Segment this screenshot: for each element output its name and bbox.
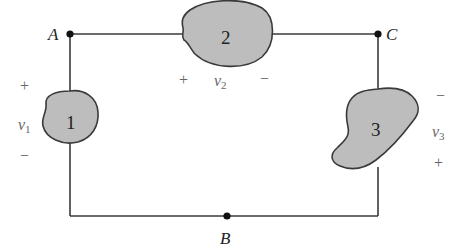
node-a-dot [66,30,73,37]
v2-label: v2 [214,73,227,91]
v3-label: v3 [432,124,445,142]
v3-plus-sign: + [434,155,443,171]
v2-minus-sign: − [260,71,269,87]
v1-minus-sign: − [20,148,29,164]
v1-subscript: 1 [25,123,31,135]
element-2-label: 2 [221,28,231,47]
node-c-dot [374,30,381,37]
node-a-label: A [48,26,58,43]
node-b-label: B [220,230,230,247]
element-3-label: 3 [371,120,381,139]
node-c-label: C [386,26,397,43]
v3-subscript: 3 [439,130,445,142]
node-b-dot [223,212,230,219]
v2-subscript: 2 [221,79,227,91]
v3-minus-sign: − [436,88,445,104]
element-1-label: 1 [66,113,76,132]
v1-plus-sign: + [20,78,29,94]
v1-label: v1 [18,117,31,135]
v2-plus-sign: + [179,72,188,88]
